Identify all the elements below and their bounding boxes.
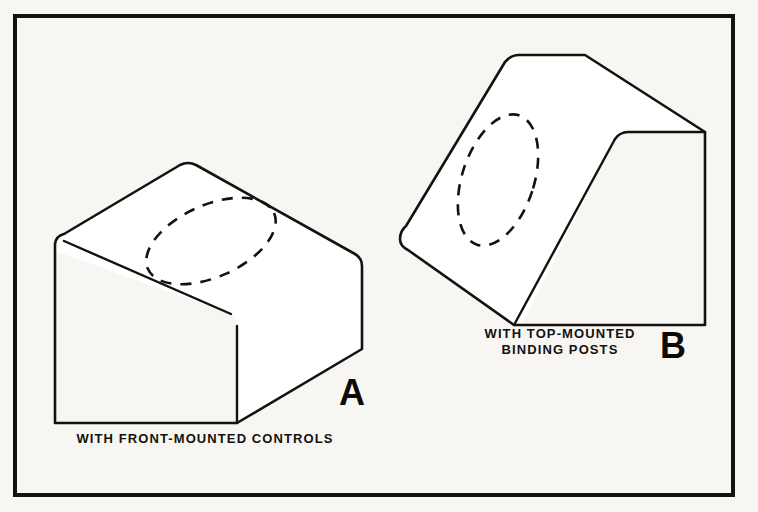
panel-b-caption-line-2: BINDING POSTS (502, 342, 619, 357)
illustration-page: A WITH FRONT-MOUNTED CONTROLS B WITH TOP… (0, 0, 758, 512)
panel-a-caption-line-1: WITH FRONT-MOUNTED CONTROLS (76, 431, 333, 446)
technical-illustration: A WITH FRONT-MOUNTED CONTROLS B WITH TOP… (0, 0, 758, 512)
panel-letter-a: A (339, 372, 365, 413)
panel-b-caption-line-1: WITH TOP-MOUNTED (485, 326, 636, 341)
panel-letter-b: B (660, 325, 686, 366)
